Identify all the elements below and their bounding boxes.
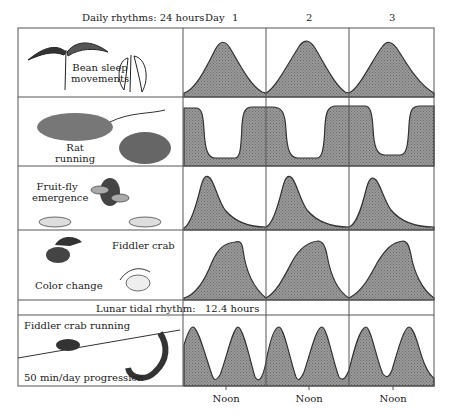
noon-label-1: Noon [206,393,246,404]
daily-rhythms-label: Daily rhythms: 24 hours [82,12,204,23]
day-1-label: 1 [232,12,238,23]
bean-label-2: movements [70,73,130,84]
day-3-label: 3 [389,12,395,23]
rat-label-1: Rat [55,142,95,153]
noon-label-2: Noon [289,393,329,404]
crab-color-title: Fiddler crab [112,240,175,251]
tidal-label: Lunar tidal rhythm: [96,303,196,314]
tidal-period: 12.4 hours [205,303,259,314]
day-prefix: Day [205,12,225,23]
crab-running-title: Fiddler crab running [24,320,130,331]
bean-curve [184,41,434,97]
crab-burrow-icon [18,330,180,378]
bean-label-1: Bean sleep [70,62,130,73]
fruitfly-curve [184,176,434,230]
noon-label-3: Noon [373,393,413,404]
crab-running-sub: 50 min/day progression [24,372,144,383]
fruitfly-label-1: Fruit-fly [32,181,82,192]
rat-label-2: running [55,153,95,164]
tidal-curve [184,327,434,386]
rat-curve [184,106,434,166]
day-2-label: 2 [306,12,312,23]
crab-color-sub: Color change [35,280,103,291]
rhythm-diagram [0,0,451,419]
fruitfly-label-2: emergence [32,192,82,203]
crab-color-curve [184,241,434,300]
